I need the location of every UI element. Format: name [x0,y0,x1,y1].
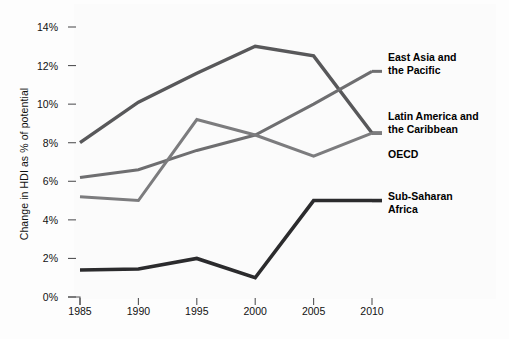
series-label-1: Latin America and the Caribbean [388,110,479,135]
chart-container: Change in HDI as % of potential 0%2%4%6%… [0,0,509,339]
plot-background [74,4,496,299]
series-label-0: East Asia and the Pacific [388,51,456,76]
series-label-2: OECD [388,148,418,161]
series-label-3: Sub-Saharan Africa [388,190,453,215]
